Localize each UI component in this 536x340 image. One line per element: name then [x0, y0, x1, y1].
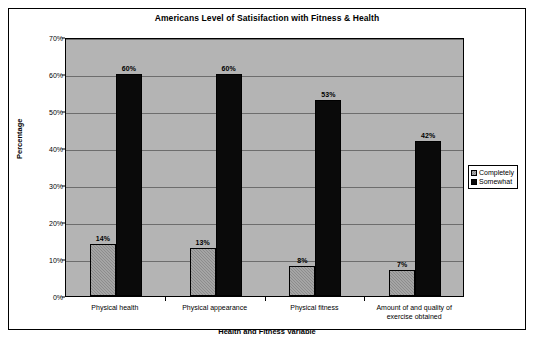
bar-value-label: 14% [96, 235, 110, 242]
bars-layer: 14%60%13%60%8%53%7%42% [66, 39, 463, 296]
y-axis-tick-label: 60% [31, 72, 63, 79]
bar-somewhat[interactable] [415, 141, 441, 296]
y-axis-tick-label: 0% [31, 294, 63, 301]
bar-somewhat[interactable] [116, 74, 142, 296]
bar-value-label: 53% [321, 91, 335, 98]
x-axis-category-label: Physical fitness [265, 303, 365, 312]
bar-value-label: 13% [196, 239, 210, 246]
bar-completely[interactable] [389, 270, 415, 296]
chart-title: Americans Level of Satisifaction with Fi… [9, 13, 525, 23]
bar-completely[interactable] [190, 248, 216, 296]
x-axis-category-label: Amount of and quality of exercise obtain… [364, 303, 464, 321]
x-axis-tick-mark [165, 297, 166, 301]
y-axis-tick-label: 70% [31, 35, 63, 42]
y-axis-tick-label: 40% [31, 146, 63, 153]
legend-swatch-icon [471, 179, 477, 185]
y-axis-tick-label: 30% [31, 183, 63, 190]
bar-value-label: 60% [122, 65, 136, 72]
bar-completely[interactable] [90, 244, 116, 296]
bar-value-label: 60% [222, 65, 236, 72]
x-axis-category-label: Physical appearance [165, 303, 265, 312]
x-axis-title: Health and Fitness Variable [9, 327, 525, 336]
legend-item-somewhat[interactable]: Somewhat [471, 177, 514, 186]
y-axis-tick-label: 50% [31, 109, 63, 116]
bar-value-label: 8% [297, 257, 307, 264]
x-axis-category-label: Physical health [65, 303, 165, 312]
bar-value-label: 7% [397, 261, 407, 268]
y-axis-tick-label: 10% [31, 257, 63, 264]
bar-somewhat[interactable] [216, 74, 242, 296]
bar-somewhat[interactable] [315, 100, 341, 296]
x-axis-tick-mark [364, 297, 365, 301]
plot-area: 14%60%13%60%8%53%7%42% [65, 38, 464, 297]
chart-legend: CompletelySomewhat [468, 165, 518, 189]
bar-completely[interactable] [289, 266, 315, 296]
chart-frame: Americans Level of Satisifaction with Fi… [8, 8, 526, 330]
legend-item-completely[interactable]: Completely [471, 168, 514, 177]
x-axis-tick-mark [265, 297, 266, 301]
y-axis-title: Percentage [15, 119, 24, 159]
legend-label: Completely [479, 168, 514, 177]
legend-swatch-icon [471, 170, 477, 176]
legend-label: Somewhat [479, 177, 512, 186]
bar-value-label: 42% [421, 132, 435, 139]
y-axis-tick-label: 20% [31, 220, 63, 227]
